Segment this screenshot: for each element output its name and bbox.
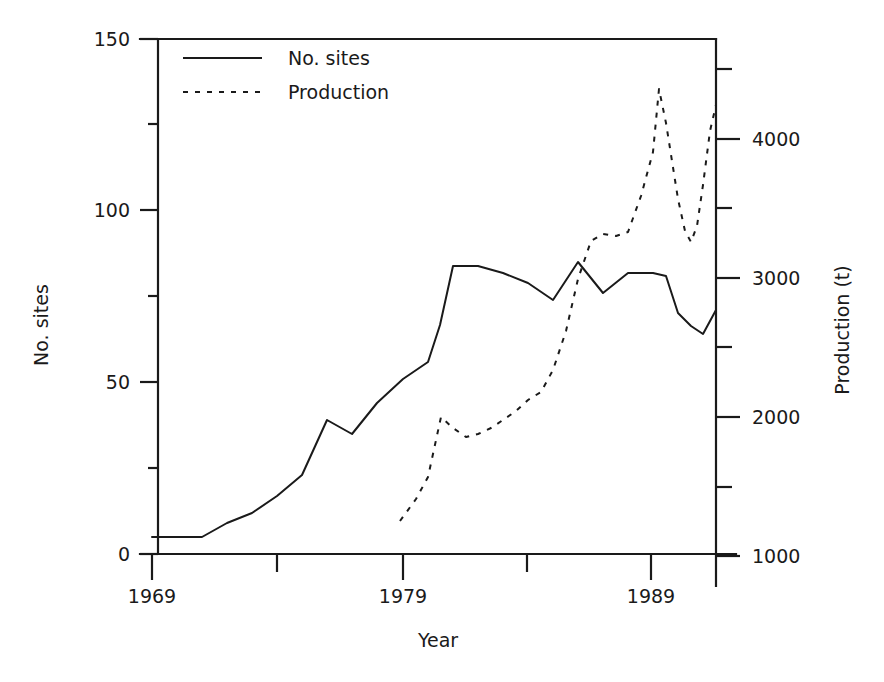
series-no-sites-line — [152, 262, 716, 537]
right-axis-tick-labels: 4000 3000 2000 1000 — [752, 128, 800, 567]
right-axis-ticks — [716, 69, 740, 556]
left-tick-label-50: 50 — [106, 371, 130, 393]
x-tick-label-1979: 1979 — [379, 585, 427, 607]
chart-svg: 150 100 50 0 4000 3000 2000 1000 — [0, 0, 884, 682]
left-tick-label-100: 100 — [94, 199, 130, 221]
legend: No. sites Production — [183, 47, 389, 103]
left-tick-label-0: 0 — [118, 543, 130, 565]
left-tick-label-150: 150 — [94, 28, 130, 50]
x-axis-title: Year — [417, 629, 458, 651]
x-tick-label-1969: 1969 — [128, 585, 176, 607]
x-tick-label-1989: 1989 — [627, 585, 675, 607]
right-tick-label-4000: 4000 — [752, 128, 800, 150]
right-tick-label-2000: 2000 — [752, 406, 800, 428]
series-production-line — [400, 89, 716, 521]
y-axis-title: No. sites — [30, 284, 52, 366]
left-axis-tick-labels: 150 100 50 0 — [94, 28, 130, 565]
right-tick-label-3000: 3000 — [752, 267, 800, 289]
plot-area — [152, 89, 716, 537]
legend-label-production: Production — [288, 81, 389, 103]
chart-figure: 150 100 50 0 4000 3000 2000 1000 — [0, 0, 884, 682]
x-axis-ticks — [152, 554, 651, 580]
x-axis-tick-labels: 1969 1979 1989 — [128, 585, 675, 607]
y2-axis-title: Production (t) — [831, 265, 853, 394]
left-axis-ticks — [140, 39, 158, 554]
axes-frame — [140, 39, 736, 586]
legend-label-no-sites: No. sites — [288, 47, 370, 69]
right-tick-label-1000: 1000 — [752, 545, 800, 567]
